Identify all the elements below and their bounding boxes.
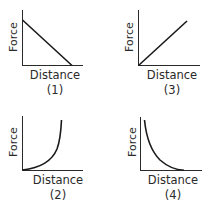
curve-linear-decreasing (23, 20, 73, 66)
graph-number: (1) (35, 84, 75, 97)
curve-exponential-increasing (23, 120, 62, 170)
graph-3: Force Distance (3) (110, 0, 220, 105)
y-axis-label: Force (127, 122, 139, 162)
x-axis-label: Distance (133, 174, 213, 187)
curve-inverse-decreasing (145, 120, 185, 170)
y-axis-label: Force (124, 17, 136, 57)
y-axis-label: Force (8, 17, 20, 57)
x-axis-label: Distance (15, 69, 95, 82)
x-axis-label: Distance (132, 69, 212, 82)
curve-linear-increasing (139, 21, 188, 66)
y-axis-label: Force (8, 122, 20, 162)
graph-number: (4) (153, 189, 193, 202)
graph-number: (2) (38, 189, 78, 202)
graph-2: Force Distance (2) (0, 105, 110, 210)
x-axis-label: Distance (18, 174, 98, 187)
graph-4: Force Distance (4) (110, 105, 220, 210)
graph-1: Force Distance (1) (0, 0, 110, 105)
graph-number: (3) (152, 84, 192, 97)
